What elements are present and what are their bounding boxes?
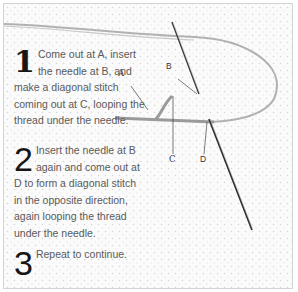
step-number: 2	[14, 144, 33, 174]
leader-d	[204, 122, 207, 154]
step-2: 2 Insert the needle at B again and come …	[14, 142, 146, 241]
step-1: 1 Come out at A, insert the needle at B,…	[14, 46, 149, 129]
needle-lower-icon	[209, 119, 252, 230]
illustration-frame: A B C D 1 Come out at A, insert the need…	[3, 3, 293, 289]
step-number: 3	[14, 248, 33, 278]
label-d: D	[200, 154, 206, 164]
step-number: 1	[14, 47, 35, 77]
step-text: Repeat to continue.	[36, 248, 127, 260]
thread-shadow	[4, 26, 194, 40]
label-b: B	[166, 61, 172, 71]
needle-upper-icon	[172, 22, 199, 94]
step-3: 3 Repeat to continue.	[14, 246, 154, 278]
diagonal-stitch	[156, 96, 172, 119]
label-c: C	[169, 154, 176, 164]
